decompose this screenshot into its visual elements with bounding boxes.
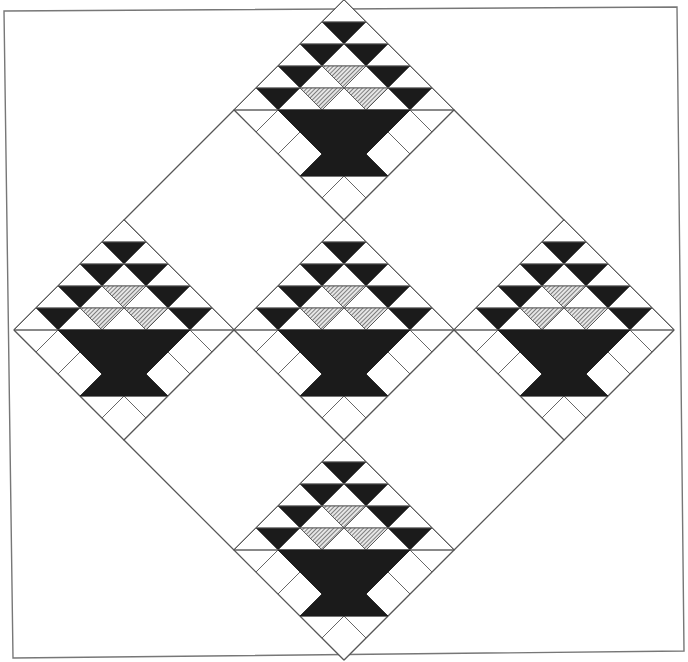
- quilt-diagram: [0, 0, 688, 662]
